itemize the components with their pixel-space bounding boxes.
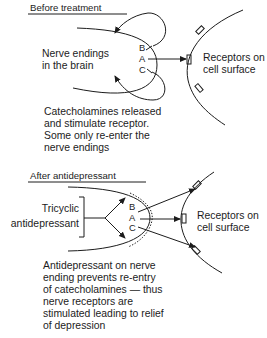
- after-caption-line4: nerve receptors are: [43, 296, 133, 308]
- receptors-label-line1: Receptors on: [197, 210, 259, 222]
- receptor: [196, 26, 204, 34]
- receptor: [182, 214, 186, 223]
- after-antidepressant-heading: After antidepressant: [30, 170, 116, 182]
- receptors-label-line1: Receptors on: [203, 52, 265, 64]
- site-label-b: B: [139, 43, 145, 53]
- drug-arrow-up: [105, 198, 125, 218]
- tricyclic-label-line1: Tricyclic: [10, 203, 79, 215]
- after-caption-line1: Antidepressant on nerve: [43, 260, 156, 272]
- after-caption-line5: stimulated leading to relief: [43, 308, 164, 320]
- site-label-a: A: [139, 54, 145, 64]
- site-label-c: C: [139, 65, 146, 75]
- lower-reentry-loop: [115, 72, 165, 100]
- receptor: [192, 246, 200, 254]
- drug-bracket: [79, 197, 84, 237]
- drug-arrow-down: [105, 218, 125, 238]
- before-caption-line4: nerve endings: [44, 142, 109, 154]
- release-arrow-c: [138, 227, 195, 247]
- before-treatment-heading: Before treatment: [30, 2, 101, 14]
- after-caption-line3: of catecholamines — thus: [43, 284, 163, 296]
- after-caption-line2: ending prevents re-entry: [43, 272, 156, 284]
- tricyclic-label-line2: antidepressant: [4, 218, 79, 230]
- before-caption-line2: and stimulate receptor.: [44, 118, 149, 130]
- release-arrow-b: [138, 189, 195, 212]
- site-label-c: C: [129, 223, 136, 233]
- receptors-label-line2: cell surface: [197, 222, 250, 234]
- nerve-endings-label-line1: Nerve endings: [42, 48, 109, 60]
- before-caption-line3: Some only re-enter the: [44, 130, 150, 142]
- nerve-endings-label-line2: in the brain: [42, 60, 93, 72]
- receptors-label-line2: cell surface: [203, 64, 256, 76]
- receptor: [195, 84, 203, 93]
- site-label-b: B: [129, 202, 135, 212]
- before-caption-line1: Catecholamines released: [44, 106, 161, 118]
- after-caption-line6: of depression: [43, 320, 105, 332]
